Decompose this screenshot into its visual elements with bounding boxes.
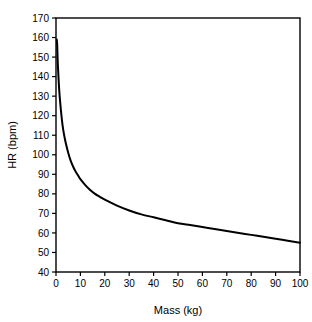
y-axis-tick-label: 90 bbox=[38, 169, 50, 180]
x-axis-tick-label: 30 bbox=[124, 278, 136, 289]
x-axis-tick-label: 100 bbox=[292, 278, 309, 289]
y-axis-tick-label: 170 bbox=[32, 13, 49, 24]
x-axis-tick-label: 10 bbox=[75, 278, 87, 289]
x-axis-tick-label: 70 bbox=[221, 278, 233, 289]
y-axis-tick-label: 120 bbox=[32, 110, 49, 121]
x-axis-tick-label: 20 bbox=[99, 278, 111, 289]
x-axis-title: Mass (kg) bbox=[154, 304, 202, 316]
y-axis-tick-label: 130 bbox=[32, 91, 49, 102]
x-axis-tick-label: 80 bbox=[246, 278, 258, 289]
chart-figure: 405060708090100110120130140150160170 010… bbox=[0, 0, 312, 322]
y-axis-tick-label: 80 bbox=[38, 188, 50, 199]
y-axis-title: HR (bpm) bbox=[6, 121, 18, 169]
y-axis-tick-label: 110 bbox=[33, 130, 49, 141]
x-axis-tick-label: 50 bbox=[172, 278, 184, 289]
y-axis-tick-label: 140 bbox=[32, 71, 49, 82]
x-axis-tick-label: 90 bbox=[270, 278, 282, 289]
x-axis-tick-label: 60 bbox=[197, 278, 209, 289]
y-axis-tick-label: 60 bbox=[38, 228, 50, 239]
chart-plot-svg: 405060708090100110120130140150160170 010… bbox=[0, 0, 312, 322]
y-axis-tick-label: 50 bbox=[38, 247, 50, 258]
y-axis-tick-label: 40 bbox=[38, 267, 50, 278]
y-axis-tick-label: 100 bbox=[32, 149, 49, 160]
x-axis-tick-label: 40 bbox=[148, 278, 160, 289]
y-axis-tick-label: 160 bbox=[32, 32, 49, 43]
y-axis-tick-label: 70 bbox=[38, 208, 50, 219]
y-axis-tick-label: 150 bbox=[32, 52, 49, 63]
x-axis-tick-label: 0 bbox=[53, 278, 59, 289]
